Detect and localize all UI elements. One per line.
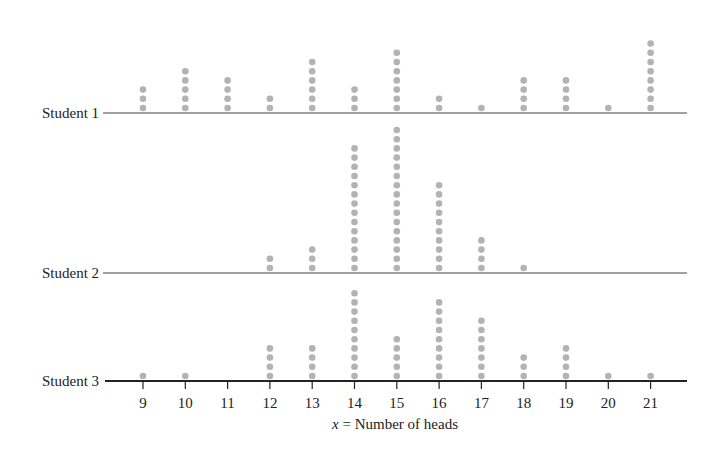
student-1-label: Student 1	[42, 105, 99, 122]
data-dot	[309, 96, 316, 103]
data-dot	[351, 373, 358, 380]
x-axis-label: x = Number of heads	[331, 416, 458, 432]
data-dot	[351, 210, 358, 217]
data-dot	[436, 308, 443, 315]
data-dot	[309, 246, 316, 253]
data-dot	[394, 105, 401, 112]
data-dot	[563, 86, 570, 93]
data-dot	[394, 364, 401, 371]
data-dot	[309, 86, 316, 93]
data-dot	[436, 96, 443, 103]
data-dot	[436, 219, 443, 226]
data-dot	[394, 373, 401, 380]
data-dot	[394, 59, 401, 66]
data-dot	[520, 265, 527, 272]
data-dot	[394, 50, 401, 57]
data-dot	[140, 373, 147, 380]
x-tick-label: 15	[389, 395, 404, 411]
data-dot	[436, 255, 443, 262]
x-tick-label: 16	[432, 395, 448, 411]
data-dot	[394, 228, 401, 235]
data-dot	[309, 68, 316, 75]
data-dot	[647, 96, 654, 103]
data-dot	[563, 373, 570, 380]
data-dot	[309, 364, 316, 371]
data-dot	[436, 105, 443, 112]
data-dot	[351, 318, 358, 325]
data-dot	[394, 136, 401, 143]
data-dot	[394, 145, 401, 152]
data-dot	[478, 373, 485, 380]
data-dot	[478, 364, 485, 371]
data-dot	[520, 105, 527, 112]
student-2-label: Student 2	[42, 265, 99, 282]
data-dot	[520, 364, 527, 371]
data-dot	[436, 265, 443, 272]
data-dot	[436, 210, 443, 217]
data-dot	[647, 373, 654, 380]
data-dot	[309, 354, 316, 361]
data-dot	[563, 364, 570, 371]
data-dot	[478, 105, 485, 112]
data-dot	[394, 164, 401, 171]
data-dot	[267, 105, 274, 112]
data-dot	[182, 96, 189, 103]
data-dot	[436, 345, 443, 352]
x-tick-label: 13	[305, 395, 320, 411]
data-dot	[309, 255, 316, 262]
dot-plot-chart: 9101112131415161718192021 x = Number of …	[0, 0, 719, 457]
data-dot	[520, 354, 527, 361]
data-dot	[351, 200, 358, 207]
data-dot	[224, 96, 231, 103]
data-dot	[182, 77, 189, 84]
data-dot	[351, 105, 358, 112]
data-dot	[267, 373, 274, 380]
data-dot	[182, 373, 189, 380]
data-dot	[351, 299, 358, 306]
x-tick-label: 9	[139, 395, 147, 411]
data-dot	[351, 145, 358, 152]
data-dot	[394, 345, 401, 352]
data-dot	[140, 86, 147, 93]
data-dot	[478, 246, 485, 253]
data-dot	[224, 86, 231, 93]
dot-plot-svg: 9101112131415161718192021 x = Number of …	[0, 0, 719, 457]
data-dot	[394, 182, 401, 189]
data-dot	[140, 96, 147, 103]
data-dot	[394, 246, 401, 253]
x-axis-ticks	[143, 381, 651, 389]
data-dot	[520, 373, 527, 380]
x-tick-label: 12	[262, 395, 277, 411]
x-tick-label: 17	[474, 395, 490, 411]
data-dot	[351, 265, 358, 272]
data-dot	[224, 105, 231, 112]
data-dot	[478, 318, 485, 325]
data-dot	[351, 228, 358, 235]
data-dot	[436, 364, 443, 371]
data-dot	[267, 265, 274, 272]
data-dot	[394, 96, 401, 103]
data-dot	[478, 336, 485, 343]
data-dot	[351, 191, 358, 198]
data-dot	[394, 354, 401, 361]
data-dot	[351, 354, 358, 361]
data-dot	[394, 210, 401, 217]
data-dot	[394, 191, 401, 198]
data-dot	[605, 105, 612, 112]
data-dot	[436, 191, 443, 198]
data-dot	[351, 86, 358, 93]
data-dot	[394, 68, 401, 75]
data-dot	[351, 364, 358, 371]
x-axis-tick-labels: 9101112131415161718192021	[139, 395, 658, 411]
data-dot	[394, 77, 401, 84]
data-dot	[394, 200, 401, 207]
data-dot	[394, 255, 401, 262]
data-dot	[436, 182, 443, 189]
data-dot	[436, 237, 443, 244]
data-dot	[351, 290, 358, 297]
data-dot	[351, 154, 358, 161]
data-dot	[563, 96, 570, 103]
data-dot	[520, 96, 527, 103]
data-dot	[309, 345, 316, 352]
data-dot	[436, 200, 443, 207]
